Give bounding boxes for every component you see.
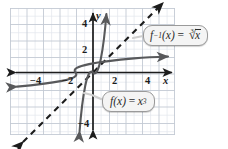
graph-figure: −4 −2 2 4 4 2 −4 x y f−1(x) = 3 √ x f(x)… (0, 0, 228, 149)
radical-index-3: 3 (191, 28, 194, 35)
x-tick-label-2: 2 (112, 76, 117, 87)
y-tick-label-2: 2 (82, 45, 87, 56)
label-inverse-function: f−1(x) = 3 √ x (143, 25, 208, 46)
y-tick-label-4: 4 (82, 19, 87, 30)
y-axis-label: y (96, 11, 101, 22)
inverse-arg: (x) (162, 30, 175, 42)
cubic-arg: (x) (113, 96, 126, 108)
x-tick-label-neg2: −2 (62, 76, 73, 87)
y-tick-label-neg4: −4 (78, 119, 89, 130)
inverse-equals-sign: = (175, 30, 187, 42)
x-axis-label: x (163, 76, 168, 87)
cubic-equals-sign: = (126, 96, 138, 108)
x-tick-label-neg4: −4 (30, 76, 41, 87)
x-tick-label-4: 4 (145, 76, 150, 87)
radicand-x: x (195, 29, 201, 42)
cube-root-radical: 3 √ x (188, 29, 202, 42)
label-cubic-function: f(x) = x3 (102, 91, 155, 112)
